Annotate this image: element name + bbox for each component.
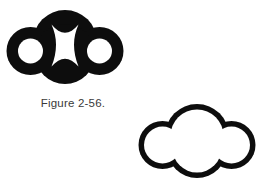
figure-page: Figure 2-56. — [0, 0, 257, 188]
outlined-cloud-stroke — [138, 98, 256, 186]
outlined-cloud-svg — [138, 98, 256, 186]
outlined-cloud-figure — [138, 98, 256, 186]
filled-cloud-svg — [6, 4, 124, 92]
figure-caption: Figure 2-56. — [0, 97, 146, 109]
filled-cloud-figure — [6, 4, 124, 92]
filled-cloud-body — [7, 10, 124, 84]
